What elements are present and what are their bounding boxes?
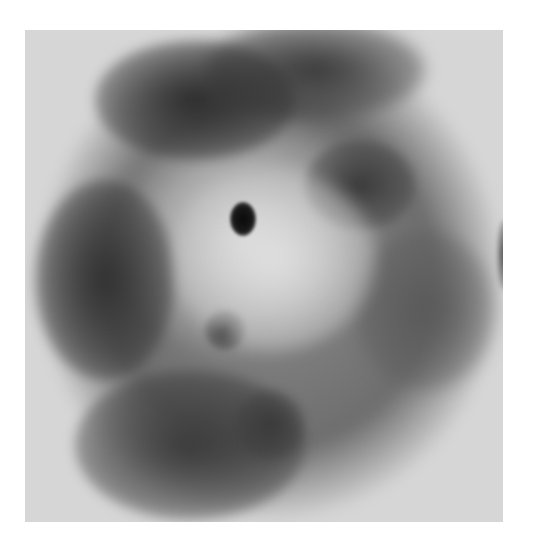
dark-region-lower-middle bbox=[235, 390, 305, 460]
dark-region-left bbox=[35, 180, 175, 380]
central-dark-hole bbox=[230, 202, 256, 236]
specimen-image bbox=[25, 30, 503, 522]
dark-region-top-left bbox=[95, 40, 295, 160]
dark-region-right-middle bbox=[355, 230, 495, 390]
light-center-region bbox=[175, 170, 375, 350]
